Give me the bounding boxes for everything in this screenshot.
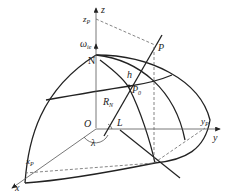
y-axis-label: y: [212, 132, 218, 143]
z-axis-label: z: [100, 4, 105, 15]
dashed-xp: [25, 163, 154, 173]
x-axis: [12, 129, 96, 188]
y-p-label: yP: [200, 116, 209, 127]
equator-arc: [25, 163, 155, 183]
north-label: N: [88, 55, 95, 66]
ellipsoid-coordinate-diagram: z zP ωie N P h P0 RN O L λ yP y xP x: [0, 0, 225, 192]
dashed-zp-to-p: [96, 19, 155, 45]
z-p-label: zP: [82, 14, 91, 25]
origin-label: O: [84, 118, 91, 129]
point-p0-dot: [127, 84, 130, 87]
height-label: h: [127, 69, 132, 80]
point-p-label: P: [157, 42, 164, 53]
x-axis-label: x: [14, 182, 20, 192]
longitude-label: λ: [90, 137, 96, 148]
lower-line: [120, 130, 180, 178]
point-p0-label: P0: [131, 84, 141, 96]
x-p-label: xP: [25, 156, 34, 167]
latitude-label: L: [116, 117, 123, 128]
radius-label: RN: [102, 96, 114, 108]
omega-label: ωie: [80, 38, 92, 50]
